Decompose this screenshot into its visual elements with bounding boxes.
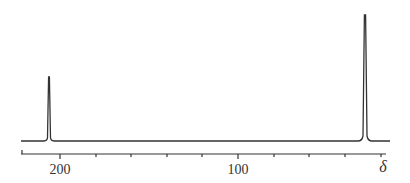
tick-label-100: 100 xyxy=(228,162,249,177)
spectrum-trace xyxy=(21,15,390,141)
tick-label-200: 200 xyxy=(50,162,71,177)
nmr-spectrum-chart: 200 100 δ xyxy=(0,0,410,183)
x-axis-label-delta: δ xyxy=(379,158,387,175)
x-axis xyxy=(21,150,386,159)
